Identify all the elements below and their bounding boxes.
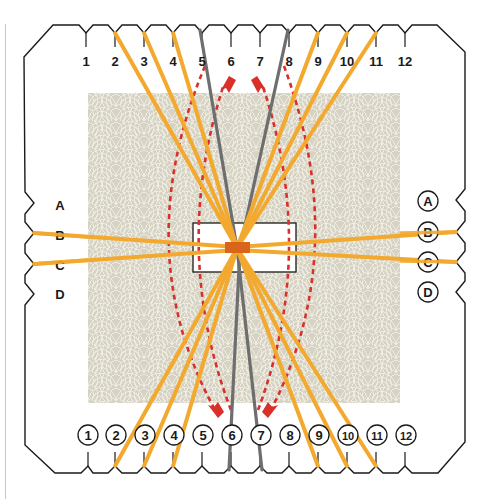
top-label-4: 4 bbox=[169, 54, 177, 69]
top-label-5: 5 bbox=[198, 54, 205, 69]
bottom-label-8: 8 bbox=[286, 428, 293, 443]
top-notch-ticks bbox=[86, 33, 405, 47]
top-label-12: 12 bbox=[398, 54, 412, 69]
card-loom-diagram: 1 2 3 4 5 6 7 8 9 10 11 12 1 2 3 4 5 6 7… bbox=[0, 0, 483, 499]
top-label-10: 10 bbox=[340, 54, 354, 69]
right-label-A: A bbox=[423, 194, 433, 209]
bottom-label-7: 7 bbox=[257, 428, 264, 443]
top-label-11: 11 bbox=[369, 54, 383, 69]
top-label-2: 2 bbox=[111, 54, 118, 69]
bottom-label-10: 10 bbox=[342, 430, 354, 442]
bottom-notch-ticks bbox=[88, 452, 405, 466]
left-label-A: A bbox=[55, 198, 65, 213]
center-knot bbox=[225, 242, 250, 253]
arrowhead-down-7 bbox=[262, 402, 278, 418]
bottom-label-1: 1 bbox=[84, 428, 91, 443]
right-label-D: D bbox=[423, 285, 432, 300]
top-label-9: 9 bbox=[314, 54, 321, 69]
top-label-6: 6 bbox=[227, 54, 234, 69]
bottom-label-5: 5 bbox=[199, 428, 206, 443]
top-label-1: 1 bbox=[82, 54, 89, 69]
bottom-label-2: 2 bbox=[112, 428, 119, 443]
left-labels: A B C D bbox=[55, 198, 65, 302]
bottom-label-12: 12 bbox=[400, 430, 412, 442]
bottom-label-9: 9 bbox=[315, 428, 322, 443]
arrowhead-down-6 bbox=[208, 402, 224, 418]
bottom-label-11: 11 bbox=[371, 430, 383, 442]
right-labels: A B C D bbox=[418, 191, 438, 302]
bottom-label-6: 6 bbox=[228, 428, 235, 443]
top-label-7: 7 bbox=[256, 54, 263, 69]
bottom-label-3: 3 bbox=[141, 428, 148, 443]
top-label-8: 8 bbox=[285, 54, 292, 69]
top-label-3: 3 bbox=[140, 54, 147, 69]
left-label-D: D bbox=[55, 287, 64, 302]
bottom-label-4: 4 bbox=[170, 428, 178, 443]
